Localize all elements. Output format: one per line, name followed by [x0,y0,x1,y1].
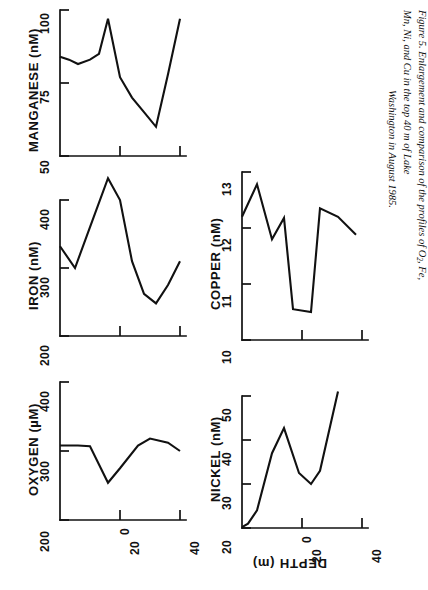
oxygen-ytick-label-400: 400 [38,391,52,412]
manganese-ytick-label-100: 100 [38,13,52,34]
nickel-data-line [242,392,338,528]
iron-plot-svg [58,188,190,348]
oxygen-plot-svg [58,372,190,532]
iron-axis-title: IRON (nM) [26,241,41,310]
right-xtick-label-0: 0 [300,536,314,543]
nickel-ytick-label-30: 30 [220,496,234,510]
iron-ytick-label-300: 300 [38,277,52,298]
iron-data-line [60,178,180,303]
copper-ytick-label-13: 13 [220,182,234,196]
oxygen-ytick-label-300: 300 [38,461,52,482]
copper-ytick-label-11: 11 [220,295,234,309]
chart-panel-nickel [240,388,372,538]
left-xtick-label-20: 20 [128,541,142,555]
caption-line-2: Washington in August 1985. [384,10,399,288]
copper-plot-svg [240,168,372,348]
iron-ytick-label-200: 200 [38,345,52,366]
chart-panel-copper [240,168,372,348]
chart-panel-iron [58,188,190,348]
oxygen-ytick-label-200: 200 [38,531,52,552]
copper-ytick-label-12: 12 [220,238,234,252]
oxygen-data-line [60,439,180,483]
caption-subscript: 2 [415,257,424,261]
manganese-plot-svg [58,8,190,168]
nickel-ytick-label-50: 50 [220,408,234,422]
manganese-ytick-label-75: 75 [38,90,52,104]
chart-panel-oxygen [58,372,190,532]
figure-container: MANGANESE (nM) 100 75 50 IRON (nM) 400 3… [0,0,428,590]
left-xtick-label-0: 0 [118,528,132,535]
copper-ytick-label-10: 10 [220,350,234,364]
copper-data-line [242,184,356,312]
manganese-ytick-label-50: 50 [38,160,52,174]
manganese-data-line [60,19,180,127]
right-xtick-label-40: 40 [370,549,384,563]
figure-caption: Figure 5. Enlargement and comparison of … [384,10,428,288]
depth-axis-title: DEPTH (m) [252,556,327,571]
caption-text-a: Figure 5. Enlargement and comparison of … [417,10,428,257]
oxygen-axis-title: OXYGEN (µM) [26,403,41,496]
left-xtick-label-40: 40 [188,541,202,555]
chart-panel-manganese [58,8,190,168]
iron-ytick-label-400: 400 [38,209,52,230]
nickel-plot-svg [240,388,372,538]
nickel-ytick-label-20: 20 [220,540,234,554]
nickel-ytick-label-40: 40 [220,452,234,466]
